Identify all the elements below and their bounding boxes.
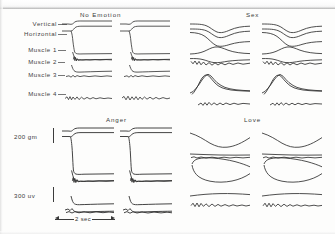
calibration-label-emg: 300 uv — [14, 192, 35, 199]
traces-anger — [62, 126, 172, 218]
calibration-label-force: 200 gm — [14, 133, 37, 140]
traces-love — [190, 126, 330, 218]
calibration-bar-force — [53, 128, 54, 143]
scan-top-band — [0, 0, 335, 9]
channel-label-muscle-3: Muscle 3 — [0, 71, 57, 78]
channel-label-muscle-1: Muscle 1 — [0, 46, 57, 53]
panel-anger — [62, 126, 172, 218]
trial-column-1 — [62, 128, 114, 213]
panel-love — [190, 126, 330, 218]
calibration-bar-emg — [53, 187, 54, 202]
channel-label-muscle-4: Muscle 4 — [0, 90, 57, 97]
trial-column-1 — [190, 24, 250, 105]
panel-title-anger: Anger — [106, 116, 127, 123]
scan-bottom-edge — [0, 231, 335, 234]
trial-column-2 — [262, 24, 322, 105]
panel-sex — [190, 18, 330, 110]
trial-column-2 — [120, 21, 170, 100]
traces-sex — [190, 18, 330, 110]
panel-no-emotion — [62, 18, 172, 110]
trial-column-2 — [262, 133, 322, 207]
trial-column-1 — [190, 133, 250, 207]
time-arrow-left-icon — [55, 216, 59, 220]
channel-label-muscle-2: Muscle 2 — [0, 58, 57, 65]
channel-label-vertical: Vertical — [0, 20, 57, 27]
panel-title-sex: Sex — [246, 11, 259, 18]
panel-title-no-emotion: No Emotion — [80, 11, 121, 18]
channel-label-horizontal: Horizontal — [0, 30, 57, 37]
figure-canvas: Vertical Horizontal Muscle 1 Muscle 2 Mu… — [0, 0, 335, 234]
traces-no-emotion — [62, 18, 172, 110]
panel-title-love: Love — [244, 116, 261, 123]
trial-column-2 — [120, 128, 172, 213]
trial-column-1 — [62, 21, 112, 100]
